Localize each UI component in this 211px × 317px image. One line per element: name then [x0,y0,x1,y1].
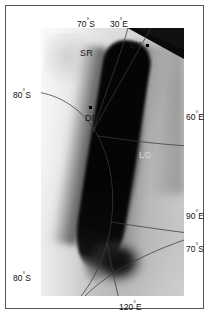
station-marker-df[interactable] [89,106,92,109]
station-label-lg: LG [139,150,151,160]
coord-label-lon-90e: 90°E [186,209,204,221]
coord-label-lat-80s-lower: 80°S [13,271,31,283]
coord-hemisphere: E [122,19,128,29]
figure-frame: SR SY DF LG 70°S 30°E 80°S 80°S 60°E 90°… [5,5,204,309]
map-image-panel[interactable]: SR SY DF LG [41,28,184,296]
coord-label-lon-120e: 120°E [119,300,142,312]
graticule-overlay [41,28,184,296]
coord-hemisphere: E [198,211,204,221]
coord-label-lat-70s-right: 70°S [186,242,204,254]
figure-container: SR SY DF LG 70°S 30°E 80°S 80°S 60°E 90°… [0,0,211,317]
lon-line-90e [111,222,184,233]
lon-line-60e [98,136,184,146]
coord-hemisphere: S [198,244,204,254]
coord-label-lon-60e: 60°E [186,110,204,122]
coord-hemisphere: S [25,90,31,100]
coord-hemisphere: E [198,112,204,122]
coord-label-lat-80s-upper: 80°S [13,88,31,100]
station-label-df: DF [85,113,97,123]
lon-line-30e [93,28,129,132]
coord-label-lon-30e-top: 30°E [110,17,128,29]
coord-hemisphere: E [136,302,142,312]
lat-circle-80s [41,92,113,296]
lat-arc-70s-lower [85,240,184,296]
station-label-sr: SR [80,48,93,58]
station-marker-sy[interactable] [146,44,149,47]
coord-label-lat-70s-top: 70°S [77,17,95,29]
coord-value: 120 [119,302,133,312]
coord-hemisphere: S [89,19,95,29]
coord-hemisphere: S [25,273,31,283]
lon-line-120e [107,242,119,296]
station-label-sy: SY [129,40,141,50]
